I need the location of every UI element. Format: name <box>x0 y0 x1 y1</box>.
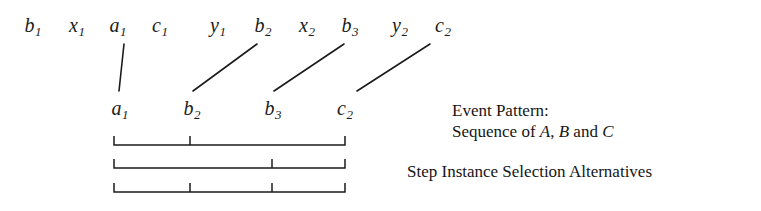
event-base: c <box>337 97 346 119</box>
connector-lines <box>119 44 430 91</box>
event-pattern-title: Event Pattern: <box>452 100 549 121</box>
event-pattern-title-text: Event Pattern: <box>452 101 549 120</box>
event-pattern-figure: b1x1a1c1y1b2x2b3y2c2 a1b2b3c2 Event Patt… <box>0 0 761 211</box>
selection-bracket-3 <box>114 183 345 192</box>
event-subscript: 2 <box>308 24 315 39</box>
selection-bracket-1 <box>114 136 345 145</box>
event-base: b <box>255 14 265 36</box>
stream-event-c2: c2 <box>435 15 451 38</box>
bracket-outline <box>114 183 345 192</box>
event-subscript: 2 <box>401 24 408 39</box>
selected-event-b2: b2 <box>184 98 201 121</box>
event-subscript: 1 <box>161 24 168 39</box>
bracket-outline <box>114 136 345 145</box>
stream-event-b1: b1 <box>25 15 42 38</box>
bracket-outline <box>114 159 345 168</box>
event-pattern-and: and <box>569 122 602 141</box>
event-subscript: 1 <box>122 107 129 122</box>
event-pattern-comma: , <box>550 122 559 141</box>
event-base: x <box>299 14 308 36</box>
event-pattern-symbol-c: C <box>602 122 613 141</box>
event-base: a <box>112 97 122 119</box>
stream-event-c1: c1 <box>152 15 168 38</box>
event-subscript: 1 <box>78 24 85 39</box>
event-subscript: 1 <box>219 24 226 39</box>
event-base: a <box>110 14 120 36</box>
event-base: b <box>342 14 352 36</box>
connector-line-b3 <box>274 44 344 91</box>
event-base: c <box>152 14 161 36</box>
selection-brackets <box>114 136 345 192</box>
connector-line-a1 <box>119 44 124 91</box>
event-pattern-symbol-b: B <box>559 122 569 141</box>
selected-event-a1: a1 <box>112 98 129 121</box>
event-subscript: 2 <box>265 24 272 39</box>
event-pattern-symbol-a: A <box>540 122 550 141</box>
stream-event-b2: b2 <box>255 15 272 38</box>
connector-line-b2 <box>193 44 257 91</box>
stream-event-y2: y2 <box>392 15 408 38</box>
selection-alternatives-text: Step Instance Selection Alternatives <box>407 162 652 181</box>
event-subscript: 2 <box>346 107 353 122</box>
connector-line-c2 <box>357 44 430 91</box>
stream-event-a1: a1 <box>110 15 127 38</box>
stream-event-b3: b3 <box>342 15 359 38</box>
selected-event-c2: c2 <box>337 98 353 121</box>
event-base: b <box>265 97 275 119</box>
event-subscript: 1 <box>120 24 127 39</box>
stream-event-x2: x2 <box>299 15 315 38</box>
event-subscript: 3 <box>352 24 359 39</box>
stream-event-x1: x1 <box>69 15 85 38</box>
event-base: b <box>25 14 35 36</box>
selected-event-b3: b3 <box>265 98 282 121</box>
event-subscript: 1 <box>35 24 42 39</box>
event-base: x <box>69 14 78 36</box>
event-subscript: 2 <box>194 107 201 122</box>
stream-event-y1: y1 <box>210 15 226 38</box>
event-pattern-description: Sequence of A, B and C <box>452 121 613 142</box>
event-base: y <box>392 14 401 36</box>
event-subscript: 2 <box>444 24 451 39</box>
event-base: b <box>184 97 194 119</box>
selection-bracket-2 <box>114 159 345 168</box>
event-base: y <box>210 14 219 36</box>
event-pattern-prefix: Sequence of <box>452 122 540 141</box>
event-subscript: 3 <box>275 107 282 122</box>
selection-alternatives-caption: Step Instance Selection Alternatives <box>407 161 652 182</box>
event-base: c <box>435 14 444 36</box>
